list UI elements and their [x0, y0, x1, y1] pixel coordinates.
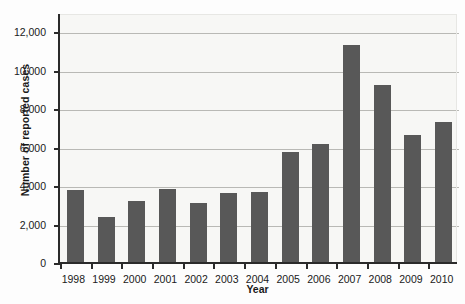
y-tick-label-8000: 8,000: [0, 103, 46, 115]
y-tick-label-0: 0: [0, 257, 46, 269]
bar-2010: [435, 122, 452, 262]
gridline-8000: [60, 110, 459, 111]
bar-chart-figure: Number of reported cases 02,0004,0006,00…: [0, 0, 465, 304]
bar-2000: [128, 201, 145, 262]
bar-2005: [282, 152, 299, 262]
y-tick-label-12000: 12,000: [0, 26, 46, 38]
x-tick-2005: [306, 262, 308, 269]
x-tick-2009: [428, 262, 430, 269]
y-tick-2000: [54, 225, 60, 227]
plot-area: [58, 14, 457, 264]
x-tick-2004: [275, 262, 277, 269]
bar-2006: [312, 144, 329, 262]
x-tick-origin: [60, 262, 62, 269]
bar-2002: [190, 203, 207, 262]
x-axis-title: Year: [58, 283, 457, 295]
x-tick-2008: [398, 262, 400, 269]
bar-2001: [159, 189, 176, 262]
bar-2009: [404, 135, 421, 262]
x-tick-1999: [121, 262, 123, 269]
x-tick-2001: [183, 262, 185, 269]
gridline-12000: [60, 33, 459, 34]
x-tick-2007: [367, 262, 369, 269]
x-tick-2006: [336, 262, 338, 269]
y-tick-12000: [54, 32, 60, 34]
gridline-4000: [60, 187, 459, 188]
y-tick-label-2000: 2,000: [0, 219, 46, 231]
bar-2003: [220, 193, 237, 262]
gridline-6000: [60, 149, 459, 150]
bar-1998: [67, 190, 84, 262]
x-tick-1998: [91, 262, 93, 269]
y-axis-title: Number of reported cases: [19, 30, 31, 230]
y-tick-4000: [54, 186, 60, 188]
bar-2004: [251, 192, 268, 262]
x-tick-2003: [244, 262, 246, 269]
y-tick-label-10000: 10,000: [0, 65, 46, 77]
bar-2008: [374, 85, 391, 262]
y-tick-label-4000: 4,000: [0, 180, 46, 192]
gridline-10000: [60, 72, 459, 73]
y-tick-label-6000: 6,000: [0, 142, 46, 154]
y-tick-6000: [54, 148, 60, 150]
bar-2007: [343, 45, 360, 262]
y-tick-10000: [54, 71, 60, 73]
x-tick-2002: [213, 262, 215, 269]
x-tick-2000: [152, 262, 154, 269]
bar-1999: [98, 217, 115, 262]
y-tick-8000: [54, 109, 60, 111]
